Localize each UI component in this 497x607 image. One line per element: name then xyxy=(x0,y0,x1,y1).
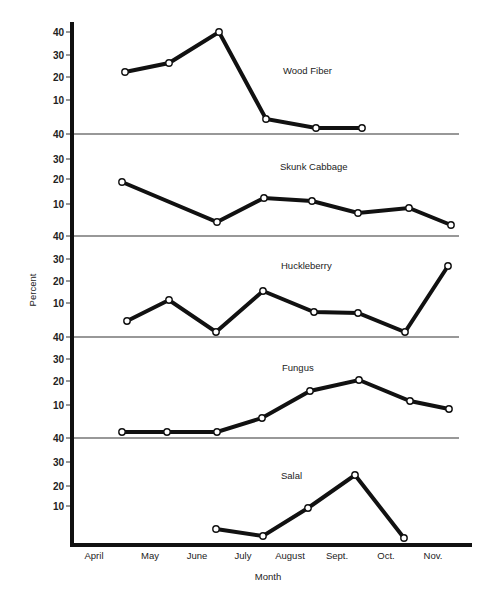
y-tick-label: 40 xyxy=(53,433,65,444)
data-point-marker xyxy=(213,526,219,532)
data-point-marker xyxy=(119,179,125,185)
y-tick-label: 20 xyxy=(53,72,65,83)
data-point-marker xyxy=(307,388,313,394)
data-point-marker xyxy=(119,429,125,435)
x-axis-title: Month xyxy=(255,571,281,582)
y-tick-label: 10 xyxy=(53,298,65,309)
panel-title: Huckleberry xyxy=(281,260,332,271)
panel-title: Wood Fiber xyxy=(283,65,332,76)
x-tick-label: July xyxy=(235,550,252,561)
y-tick-label: 10 xyxy=(53,501,65,512)
y-tick-label: 10 xyxy=(53,95,65,106)
data-point-marker xyxy=(448,222,454,228)
data-point-marker xyxy=(406,205,412,211)
y-tick-label: 10 xyxy=(53,400,65,411)
data-point-marker xyxy=(164,429,170,435)
y-axis-title: Percent xyxy=(27,273,38,306)
series-line xyxy=(125,32,362,128)
panel-dividers xyxy=(72,134,459,438)
panel-title: Salal xyxy=(281,470,302,481)
data-point-marker xyxy=(263,116,269,122)
data-point-marker xyxy=(166,60,172,66)
data-point-marker xyxy=(402,329,408,335)
data-point-marker xyxy=(166,297,172,303)
data-point-marker xyxy=(313,125,319,131)
data-point-marker xyxy=(359,125,365,131)
data-point-marker xyxy=(261,195,267,201)
y-tick-label: 20 xyxy=(53,481,65,492)
series-line xyxy=(122,380,449,432)
x-tick-label: Nov. xyxy=(424,550,443,561)
data-point-marker xyxy=(260,533,266,539)
x-tick-label: June xyxy=(187,550,208,561)
panel-title: Fungus xyxy=(282,362,314,373)
y-axis-ticks: 1020304010203040102030401020304010203040 xyxy=(53,27,72,512)
y-tick-label: 30 xyxy=(53,50,65,61)
y-tick-label: 40 xyxy=(53,231,65,242)
data-point-marker xyxy=(216,29,222,35)
y-tick-label: 30 xyxy=(53,254,65,265)
data-point-marker xyxy=(122,69,128,75)
series-line xyxy=(127,266,448,332)
stacked-line-chart: 1020304010203040102030401020304010203040… xyxy=(0,0,497,607)
y-tick-label: 40 xyxy=(53,332,65,343)
data-point-marker xyxy=(309,198,315,204)
y-tick-label: 30 xyxy=(53,354,65,365)
panel-title: Skunk Cabbage xyxy=(280,161,348,172)
data-point-marker xyxy=(401,535,407,541)
data-point-marker xyxy=(214,429,220,435)
data-point-marker xyxy=(355,210,361,216)
data-point-marker xyxy=(260,288,266,294)
y-tick-label: 40 xyxy=(53,129,65,140)
y-tick-label: 30 xyxy=(53,457,65,468)
x-tick-label: April xyxy=(84,550,103,561)
data-point-marker xyxy=(355,310,361,316)
y-tick-label: 40 xyxy=(53,27,65,38)
data-point-marker xyxy=(124,318,130,324)
x-tick-label: Oct. xyxy=(377,550,394,561)
y-tick-label: 10 xyxy=(53,199,65,210)
data-point-marker xyxy=(305,505,311,511)
data-point-marker xyxy=(352,472,358,478)
y-tick-label: 30 xyxy=(53,154,65,165)
x-tick-label: Sept. xyxy=(326,550,348,561)
x-axis-month-labels: AprilMayJuneJulyAugustSept.Oct.Nov. xyxy=(84,550,442,561)
x-tick-label: May xyxy=(141,550,159,561)
data-point-marker xyxy=(356,377,362,383)
x-tick-label: August xyxy=(275,550,305,561)
data-series xyxy=(119,29,454,541)
series-line xyxy=(122,182,451,225)
y-tick-label: 20 xyxy=(53,174,65,185)
data-point-marker xyxy=(214,219,220,225)
data-point-marker xyxy=(446,406,452,412)
data-point-marker xyxy=(259,415,265,421)
y-tick-label: 20 xyxy=(53,276,65,287)
data-point-marker xyxy=(213,329,219,335)
data-point-marker xyxy=(311,309,317,315)
y-tick-label: 20 xyxy=(53,376,65,387)
data-point-marker xyxy=(407,398,413,404)
data-point-marker xyxy=(445,263,451,269)
